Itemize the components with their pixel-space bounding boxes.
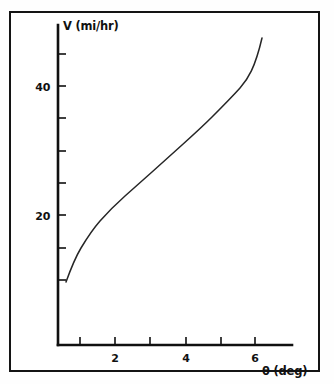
y-axis-tick-label-40: 40 [35,81,50,94]
x-axis-tick-label-4: 4 [182,352,190,365]
y-axis-title: V (mi/hr) [63,19,119,33]
x-axis-tick-label-2: 2 [111,352,118,365]
x-axis-tick-label-6: 6 [251,352,259,365]
figure-root: 40 20 2 4 6 V (mi/hr) θ (deg) [0,0,334,384]
x-axis-title: θ (deg) [262,364,307,378]
chart-plot-area: 40 20 2 4 6 V (mi/hr) θ (deg) [0,0,334,384]
data-curve-v-vs-theta [66,38,262,282]
y-axis-tick-label-20: 20 [35,210,50,223]
